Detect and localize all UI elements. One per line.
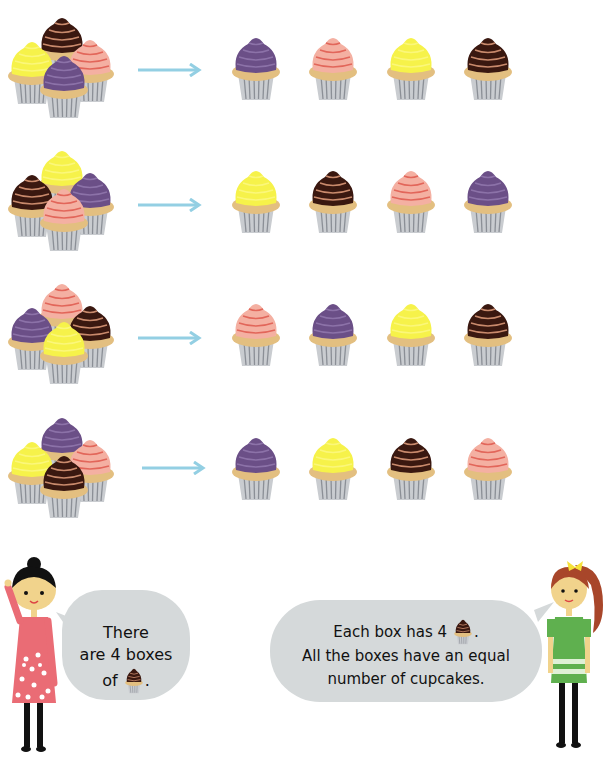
cupcake-chocolate-icon	[385, 432, 437, 502]
cupcake-purple-icon	[38, 50, 90, 120]
speech-right-line1: Each box has 4 .	[270, 617, 542, 645]
speech-left-line3: of .	[62, 666, 190, 694]
speech-right-period: .	[474, 623, 479, 641]
speech-bubble-left: There are 4 boxes of .	[62, 590, 190, 700]
cupcake-pink-icon	[230, 298, 282, 368]
cupcake-chocolate-icon	[462, 298, 514, 368]
speech-left-of: of	[102, 671, 117, 690]
cupcake-pink-icon	[462, 432, 514, 502]
cupcake-row	[0, 412, 608, 522]
speech-right-line2: All the boxes have an equal	[270, 645, 542, 668]
cupcake-group	[0, 412, 115, 522]
cupcake-yellow-icon	[230, 165, 282, 235]
cupcake-group	[0, 145, 115, 255]
girl-left-illustration	[4, 555, 60, 755]
arrow-right-icon	[138, 197, 202, 211]
cupcake-pink-icon	[38, 183, 90, 253]
cupcake-chocolate-icon	[307, 165, 359, 235]
cupcake-yellow-icon	[385, 32, 437, 102]
speech-left-period: .	[145, 671, 150, 690]
cupcake-purple-icon	[462, 165, 514, 235]
cupcake-purple-icon	[307, 298, 359, 368]
cupcake-chocolate-icon	[38, 450, 90, 520]
cupcake-chocolate-icon	[462, 32, 514, 102]
cupcake-purple-icon	[230, 432, 282, 502]
cupcake-icon	[123, 666, 145, 694]
cupcake-yellow-icon	[307, 432, 359, 502]
cupcake-group	[0, 278, 115, 388]
arrow-right-icon	[138, 62, 202, 76]
cupcake-yellow-icon	[38, 316, 90, 386]
cupcake-row	[0, 12, 608, 122]
cupcake-purple-icon	[230, 32, 282, 102]
speech-right-line1-text: Each box has 4	[333, 623, 447, 641]
speech-bubble-right: Each box has 4 . All the boxes have an e…	[270, 600, 542, 702]
cupcake-row	[0, 145, 608, 255]
arrow-right-icon	[142, 460, 206, 474]
speech-left-line1: There	[62, 622, 190, 644]
speech-right-line3: number of cupcakes.	[270, 668, 542, 691]
cupcake-icon	[452, 617, 474, 645]
bubble-tail-left	[56, 612, 76, 632]
cupcake-pink-icon	[307, 32, 359, 102]
cupcake-group	[0, 12, 115, 122]
girl-right-illustration	[545, 555, 605, 755]
cupcake-row	[0, 278, 608, 388]
arrow-right-icon	[138, 330, 202, 344]
speech-left-line2: are 4 boxes	[62, 644, 190, 666]
cupcake-yellow-icon	[385, 298, 437, 368]
cupcake-pink-icon	[385, 165, 437, 235]
